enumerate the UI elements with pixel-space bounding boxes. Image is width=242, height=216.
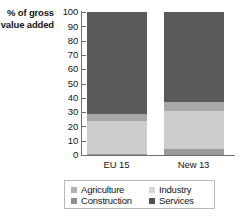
chart-figure: % of gross value added 10090807060504030… xyxy=(0,0,242,216)
legend-label: Services xyxy=(159,196,194,206)
x-axis-label-1: New 13 xyxy=(164,159,224,170)
y-axis-tick-label: 50 xyxy=(57,79,78,89)
legend-label: Agriculture xyxy=(81,185,124,195)
stacked-bar-new-13 xyxy=(164,12,224,155)
legend-item: Services xyxy=(149,196,216,206)
bar-segment-agriculture xyxy=(164,149,224,155)
plot-area: 1009080706050403020100 EU 15 New 13 xyxy=(57,12,235,155)
y-axis-title-line-2: value added xyxy=(0,19,54,31)
y-axis-tick-label: 100 xyxy=(57,7,78,17)
legend: AgricultureIndustryConstructionServices xyxy=(64,180,215,209)
bar-segment-agriculture xyxy=(87,154,147,155)
y-axis-tick-label: 0 xyxy=(57,150,78,160)
y-axis-tick-label: 80 xyxy=(57,36,78,46)
legend-swatch-construction xyxy=(71,198,77,204)
bar-group xyxy=(82,12,235,155)
y-axis-tick-label: 10 xyxy=(57,136,78,146)
legend-label: Industry xyxy=(159,185,191,195)
bar-segment-services xyxy=(87,12,147,114)
legend-swatch-industry xyxy=(149,187,155,193)
x-axis-label-0: EU 15 xyxy=(87,159,147,170)
bar-segment-services xyxy=(164,12,224,102)
bar-segment-construction xyxy=(164,102,224,111)
y-axis-tick-label: 70 xyxy=(57,50,78,60)
y-axis-tick-mark xyxy=(82,155,86,156)
bar-segment-industry xyxy=(164,111,224,150)
legend-swatch-agriculture xyxy=(71,187,77,193)
y-axis-tick-label: 20 xyxy=(57,122,78,132)
legend-label: Construction xyxy=(81,196,132,206)
y-axis-tick-label: 30 xyxy=(57,107,78,117)
y-axis-tick-label: 40 xyxy=(57,93,78,103)
y-axis-tick-label: 90 xyxy=(57,22,78,32)
y-axis-tick-labels: 1009080706050403020100 xyxy=(57,12,78,155)
legend-grid: AgricultureIndustryConstructionServices xyxy=(71,184,210,206)
y-axis-tick-label: 60 xyxy=(57,64,78,74)
y-axis-title: % of gross value added xyxy=(0,7,54,30)
y-axis-title-line-1: % of gross xyxy=(0,7,54,19)
bar-segment-construction xyxy=(87,114,147,121)
x-axis-line xyxy=(81,155,235,156)
legend-swatch-services xyxy=(149,198,155,204)
x-axis-tick-labels: EU 15 New 13 xyxy=(82,157,235,173)
legend-item: Construction xyxy=(71,196,149,206)
legend-item: Agriculture xyxy=(71,185,149,195)
legend-item: Industry xyxy=(149,185,216,195)
stacked-bar-eu-15 xyxy=(87,12,147,155)
bar-segment-industry xyxy=(87,121,147,154)
